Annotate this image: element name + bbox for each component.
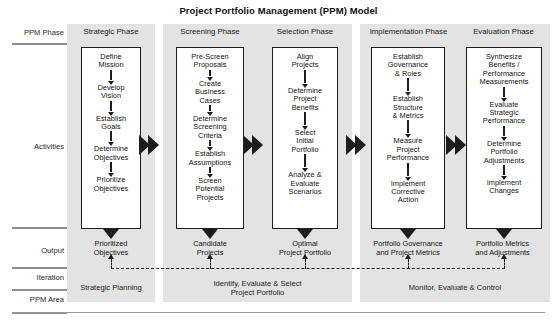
iteration-arrowhead-strategic bbox=[108, 254, 114, 259]
activity-item: Determine Portfolio Adjustments bbox=[484, 140, 525, 165]
output-arrow-strategic bbox=[103, 229, 119, 239]
ppm-model-diagram: Project Portfolio Management (PPM) Model… bbox=[0, 0, 557, 324]
row-label-ppm-phase: PPM Phase bbox=[24, 28, 64, 37]
bottom-divider bbox=[12, 312, 545, 313]
row-label-ppm-area: PPM Area bbox=[30, 295, 64, 304]
activity-box-selection: Align Projects Determine Project Benefit… bbox=[272, 47, 338, 229]
phase-heading-screening: Screening Phase bbox=[163, 27, 257, 36]
output-arrow-selection bbox=[297, 229, 313, 239]
row-label-column: PPM Phase Activities Output Iteration PP… bbox=[0, 24, 67, 302]
row-divider-4 bbox=[12, 289, 67, 291]
iteration-arrowhead-selection bbox=[302, 254, 308, 259]
activity-box-implementation: Establish Governance & Roles Establish S… bbox=[371, 47, 445, 229]
phase-heading-implementation: Implementation Phase bbox=[360, 27, 457, 36]
row-divider-2 bbox=[12, 227, 67, 229]
iteration-riser-evaluation bbox=[504, 259, 505, 269]
iteration-arrowhead-screening bbox=[207, 254, 213, 259]
activity-item: Implement Changes bbox=[487, 179, 522, 196]
activity-item: Define Mission bbox=[98, 53, 123, 70]
output-arrow-evaluation bbox=[496, 229, 512, 239]
activity-item: Implement Corrective Action bbox=[391, 180, 426, 205]
activity-item: Synthesize Benefits / Performance Measur… bbox=[480, 53, 529, 87]
activity-item: Establish Goals bbox=[96, 115, 126, 132]
output-arrow-implementation bbox=[400, 229, 416, 239]
iteration-riser-screening bbox=[210, 259, 211, 269]
activity-item: Establish Structure & Metrics bbox=[393, 95, 424, 120]
ppm-area-cell-monitor-evaluate-control: Monitor, Evaluate & Control bbox=[360, 273, 550, 302]
activity-item: Measure Project Performance bbox=[387, 137, 429, 162]
row-label-activities: Activities bbox=[34, 142, 64, 151]
iteration-riser-strategic bbox=[111, 259, 112, 269]
iteration-riser-selection bbox=[305, 259, 306, 269]
activity-item: Screen Potential Projects bbox=[196, 177, 225, 202]
activity-item: Create Business Cases bbox=[195, 80, 225, 105]
activity-item: Evaluate Strategic Performance bbox=[483, 101, 525, 126]
activity-item: Determine Screening Criteria bbox=[193, 115, 227, 140]
row-label-iteration: Iteration bbox=[37, 273, 64, 282]
activity-item: Determine Project Benefits bbox=[288, 87, 322, 112]
output-arrow-screening bbox=[202, 229, 218, 239]
row-divider-3 bbox=[12, 267, 67, 269]
page-title: Project Portfolio Management (PPM) Model bbox=[0, 5, 557, 16]
activity-item: Prioritize Objectives bbox=[94, 176, 129, 193]
activity-item: Pre-Screen Proposals bbox=[191, 53, 228, 70]
activity-item: Align Projects bbox=[292, 53, 319, 70]
activity-item: Select Initial Portfolio bbox=[291, 129, 318, 154]
iteration-arrowhead-implementation bbox=[405, 254, 411, 259]
ppm-area-cell-identify-evaluate-select: Identify, Evaluate & Select Project Port… bbox=[163, 273, 352, 302]
phase-heading-strategic: Strategic Phase bbox=[67, 27, 155, 36]
phase-heading-selection: Selection Phase bbox=[258, 27, 352, 36]
row-divider-1 bbox=[12, 43, 67, 45]
row-label-output: Output bbox=[41, 246, 64, 255]
phase-heading-evaluation: Evaluation Phase bbox=[457, 27, 550, 36]
iteration-riser-implementation bbox=[408, 259, 409, 269]
activity-item: Establish Assumptions bbox=[189, 150, 231, 167]
activity-item: Determine Objectives bbox=[94, 145, 129, 162]
iteration-feedback-line bbox=[111, 268, 505, 269]
activity-box-evaluation: Synthesize Benefits / Performance Measur… bbox=[466, 47, 542, 229]
activity-item: Establish Governance & Roles bbox=[388, 53, 428, 78]
iteration-arrowhead-evaluation bbox=[501, 254, 507, 259]
ppm-area-cell-strategic-planning: Strategic Planning bbox=[67, 273, 155, 302]
activity-box-screening: Pre-Screen Proposals Create Business Cas… bbox=[176, 47, 244, 229]
activity-box-strategic: Define Mission Develop Vision Establish … bbox=[81, 47, 141, 229]
activity-item: Develop Vision bbox=[97, 84, 124, 101]
activity-item: Analyze & Evaluate Scenarios bbox=[288, 171, 321, 196]
